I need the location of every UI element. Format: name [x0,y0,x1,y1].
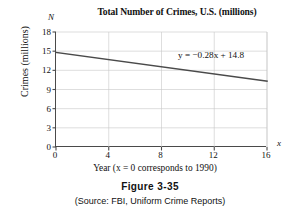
y-tick-label: 9 [35,85,51,95]
y-tick-label: 12 [35,65,51,75]
figure-container: Total Number of Crimes, U.S. (millions) … [0,0,300,215]
chart-title: Total Number of Crimes, U.S. (millions) [62,6,292,17]
x-tick-label: 12 [201,150,225,160]
x-tick-label: 16 [254,150,278,160]
x-tick-label: 8 [149,150,173,160]
x-axis-tick-labels: 0481216 [55,150,266,163]
y-tick-label: 3 [35,123,51,133]
x-axis-title: Year (x = 0 corresponds to 1990) [40,163,270,173]
y-tick-label: 15 [35,46,51,56]
x-tick-label: 4 [96,150,120,160]
line-equation-annotation: y = −0.28x + 14.8 [178,50,244,60]
y-tick-label: 6 [35,104,51,114]
y-tick-label: 18 [35,27,51,37]
x-tick-label: 0 [43,150,67,160]
y-axis-title: Crimes (millions) [19,2,30,122]
x-axis-variable-marker: x [277,138,281,148]
figure-source-note: (Source: FBI, Uniform Crime Reports) [0,196,300,206]
figure-caption-label: Figure 3-35 [0,181,300,192]
y-axis-tick-labels: 0369121518 [34,32,51,147]
y-axis-variable-marker: N [48,12,54,22]
